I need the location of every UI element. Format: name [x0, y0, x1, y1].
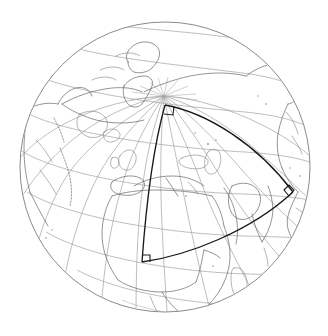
right-angle-markers [143, 106, 294, 262]
globe-figure [0, 0, 328, 336]
parallels-group [20, 24, 318, 322]
globe-svg [0, 0, 328, 336]
spherical-quadrilateral [142, 105, 293, 262]
coastlines-group [24, 42, 312, 322]
